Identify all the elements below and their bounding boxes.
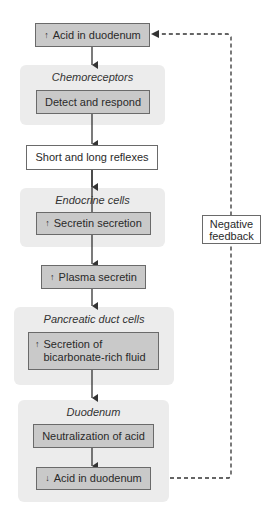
plasma-secretin-box: ↑ Plasma secretin [41, 265, 146, 289]
acid-decrease-box: ↓ Acid in duodenum [36, 467, 151, 490]
up-arrow-icon: ↑ [50, 271, 55, 284]
neutralization-label: Neutralization of acid [42, 430, 145, 443]
bicarbonate-secretion-box: ↑ Secretion of bicarbonate-rich fluid [28, 332, 159, 370]
acid-increase-box: ↑ Acid in duodenum [35, 23, 150, 47]
feedback-arrowhead-icon [151, 30, 159, 38]
secretin-secretion-box: ↑ Secretin secretion [36, 212, 151, 235]
detect-respond-label: Detect and respond [45, 96, 141, 109]
reflexes-label: Short and long reflexes [35, 151, 148, 164]
bicarbonate-label-line2: bicarbonate-rich fluid [44, 351, 146, 364]
negative-feedback-line1: Negative [210, 218, 253, 230]
detect-respond-box: Detect and respond [36, 90, 150, 114]
secretin-secretion-label: Secretin secretion [54, 217, 142, 230]
neutralization-box: Neutralization of acid [33, 424, 154, 448]
up-arrow-icon: ↑ [35, 338, 40, 351]
up-arrow-icon: ↑ [44, 29, 49, 42]
negative-feedback-dashed-line [158, 34, 231, 478]
plasma-secretin-label: Plasma secretin [59, 271, 137, 284]
bicarbonate-label-line1: Secretion of [44, 338, 146, 351]
down-arrow-icon: ↓ [45, 472, 50, 485]
up-arrow-icon: ↑ [45, 217, 50, 230]
acid-increase-label: Acid in duodenum [53, 29, 141, 42]
reflexes-box: Short and long reflexes [26, 145, 158, 170]
negative-feedback-line2: feedback [209, 230, 254, 242]
acid-decrease-label: Acid in duodenum [54, 472, 142, 485]
negative-feedback-box: Negative feedback [202, 215, 261, 244]
